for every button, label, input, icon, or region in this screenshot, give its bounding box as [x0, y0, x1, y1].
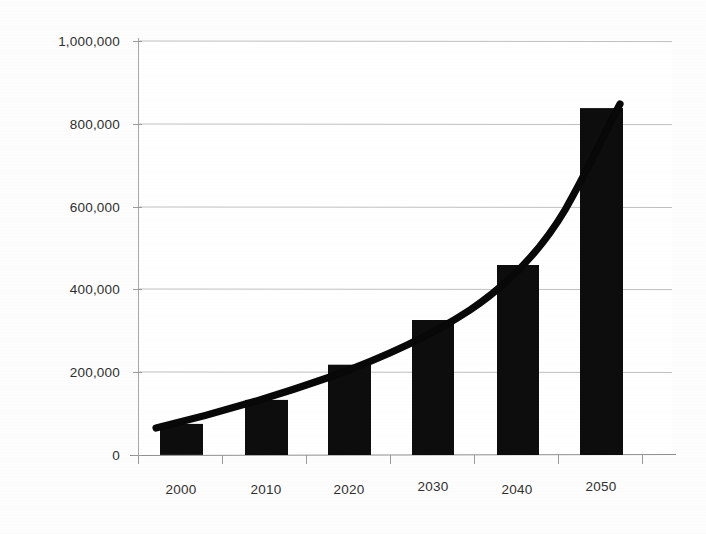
x-axis-tickmarks	[139, 455, 643, 464]
x-tick-label-2050: 2050	[586, 479, 617, 494]
bar-2040[interactable]	[497, 265, 539, 455]
y-tick-label-800000: 800,000	[70, 117, 120, 132]
x-tick-label-2030: 2030	[418, 479, 449, 494]
bar-2010[interactable]	[245, 400, 288, 455]
chart-container: 1,000,000 800,000 600,000 400,000 200,00…	[0, 0, 706, 534]
y-tick-label-0: 0	[112, 448, 120, 463]
chart-canvas: 1,000,000 800,000 600,000 400,000 200,00…	[0, 0, 706, 534]
gridline-1000000	[138, 41, 672, 42]
bar-2050[interactable]	[580, 108, 623, 455]
x-tick-label-2010: 2010	[251, 482, 282, 497]
x-tick-label-2000: 2000	[166, 482, 197, 497]
y-tick-label-200000: 200,000	[70, 365, 120, 380]
x-tick-label-2040: 2040	[502, 482, 533, 497]
y-tick-label-400000: 400,000	[70, 282, 120, 297]
x-tick-label-2020: 2020	[334, 482, 365, 497]
y-axis-labels: 1,000,000 800,000 600,000 400,000 200,00…	[58, 34, 120, 463]
y-tick-label-600000: 600,000	[70, 200, 120, 215]
x-axis-labels: 2000 2010 2020 2030 2040 2050	[166, 479, 617, 497]
y-tick-label-1000000: 1,000,000	[58, 34, 120, 49]
